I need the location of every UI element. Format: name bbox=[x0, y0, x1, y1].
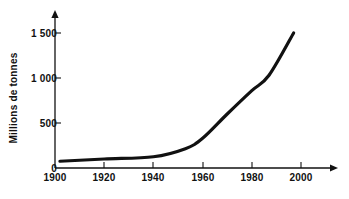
x-tick-label-2000: 2000 bbox=[289, 172, 312, 183]
y-tick-label-1000: 1 000 bbox=[31, 73, 57, 84]
x-tick-label-1940: 1940 bbox=[141, 172, 164, 183]
x-axis-ticks bbox=[104, 162, 301, 168]
x-tick-label-1900: 1900 bbox=[43, 172, 66, 183]
x-tick-label-1960: 1960 bbox=[191, 172, 214, 183]
data-series-line bbox=[60, 33, 294, 161]
y-tick-label-1500: 1 500 bbox=[31, 28, 57, 39]
x-tick-label-1980: 1980 bbox=[240, 172, 263, 183]
y-axis-title: Millions de tonnes bbox=[8, 52, 19, 143]
x-tick-label-1920: 1920 bbox=[92, 172, 115, 183]
x-axis bbox=[55, 164, 338, 171]
y-tick-label-500: 500 bbox=[40, 118, 57, 129]
chart-figure: 0 500 1 000 1 500 1900 1920 1940 1960 19… bbox=[0, 0, 349, 199]
